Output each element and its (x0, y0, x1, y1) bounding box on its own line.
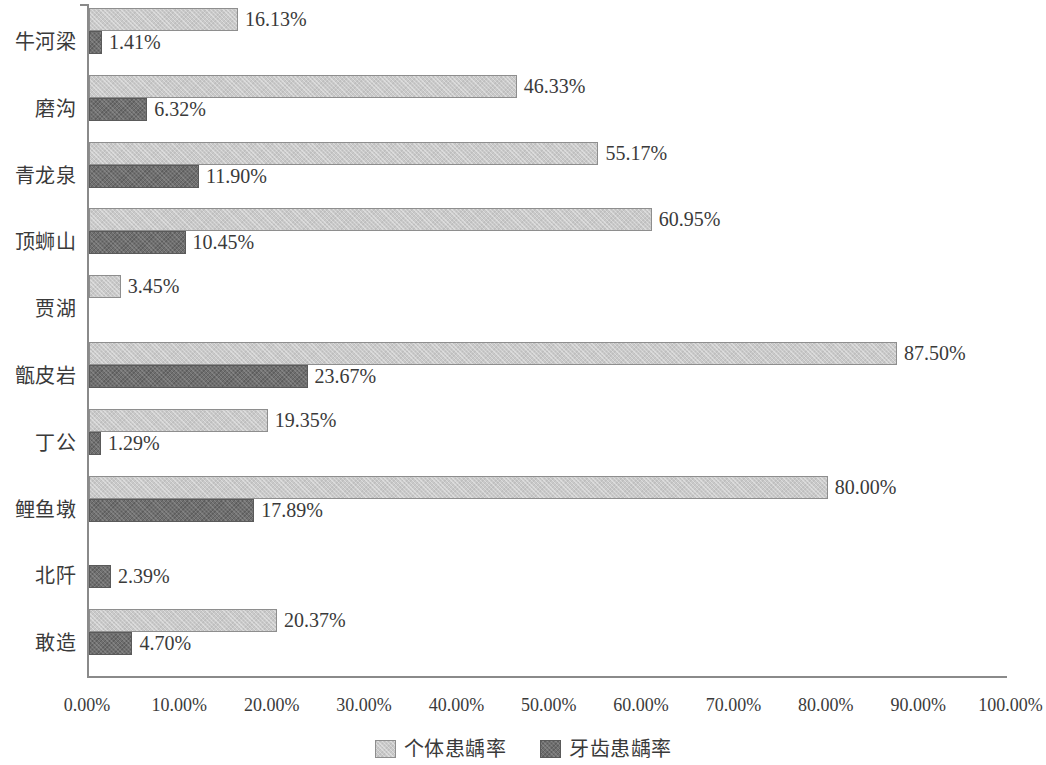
bar-value-label: 1.29% (101, 431, 160, 454)
bar-group: 青龙泉55.17%11.90% (0, 142, 1046, 188)
bar-row: 17.89% (89, 499, 1046, 522)
bar-value-label: 23.67% (308, 364, 377, 387)
bar-group: 丁公19.35%1.29% (0, 409, 1046, 455)
category-label: 贾湖 (0, 297, 76, 321)
bar-value-label: 46.33% (517, 74, 586, 97)
bar-row: 11.90% (89, 165, 1046, 188)
legend-label: 牙齿患龋率 (569, 737, 672, 761)
bar-group: 北阡2.39% (0, 542, 1046, 588)
bar-row: 1.29% (89, 432, 1046, 455)
plot-area: 牛河梁16.13%1.41%磨沟46.33%6.32%青龙泉55.17%11.9… (0, 0, 1046, 690)
category-label: 鲤鱼墩 (0, 498, 76, 522)
bar-individual-caries-rate (89, 476, 828, 499)
bar-row: 3.45% (89, 275, 1046, 298)
bar-value-label: 17.89% (254, 498, 323, 521)
bar-tooth-caries-rate (89, 31, 102, 54)
bar-value-label: 55.17% (598, 141, 667, 164)
bar-tooth-caries-rate (89, 165, 199, 188)
bar-individual-caries-rate (89, 8, 238, 31)
bar-group: 贾湖3.45% (0, 275, 1046, 321)
bar-value-label: 16.13% (238, 7, 307, 30)
legend-item[interactable]: 牙齿患龋率 (540, 737, 672, 761)
bar-row: 55.17% (89, 142, 1046, 165)
bar-group: 牛河梁16.13%1.41% (0, 8, 1046, 54)
legend-item[interactable]: 个体患龋率 (375, 737, 507, 761)
category-label: 北阡 (0, 564, 76, 588)
bar-value-label: 87.50% (897, 341, 966, 364)
bar-value-label: 19.35% (268, 408, 337, 431)
bar-value-label: 80.00% (828, 475, 897, 498)
bar-row: 1.41% (89, 31, 1046, 54)
bar-group: 鲤鱼墩80.00%17.89% (0, 476, 1046, 522)
bar-row: 19.35% (89, 409, 1046, 432)
bar-row: 16.13% (89, 8, 1046, 31)
category-label: 磨沟 (0, 97, 76, 121)
bar-individual-caries-rate (89, 75, 517, 98)
bar-individual-caries-rate (89, 142, 598, 165)
bar-tooth-caries-rate (89, 565, 111, 588)
bar-value-label: 10.45% (186, 230, 255, 253)
category-label: 甑皮岩 (0, 364, 76, 388)
bar-row: 20.37% (89, 609, 1046, 632)
bar-value-label: 2.39% (111, 564, 170, 587)
legend-swatch-icon (375, 740, 396, 758)
bar-value-label: 11.90% (199, 164, 267, 187)
legend-label: 个体患龋率 (404, 737, 507, 761)
bar-group: 敢造20.37%4.70% (0, 609, 1046, 655)
bar-row: 10.45% (89, 231, 1046, 254)
bar-group: 磨沟46.33%6.32% (0, 75, 1046, 121)
bar-value-label: 6.32% (147, 97, 206, 120)
bar-row: 4.70% (89, 632, 1046, 655)
caries-rate-bar-chart: 牛河梁16.13%1.41%磨沟46.33%6.32%青龙泉55.17%11.9… (0, 0, 1046, 765)
bar-tooth-caries-rate (89, 231, 186, 254)
bar-individual-caries-rate (89, 208, 652, 231)
category-label: 丁公 (0, 431, 76, 455)
category-label: 牛河梁 (0, 30, 76, 54)
bar-row: 87.50% (89, 342, 1046, 365)
bar-individual-caries-rate (89, 609, 277, 632)
x-axis-tick-label: 100.00% (956, 694, 1046, 716)
bar-tooth-caries-rate (89, 499, 254, 522)
bar-row: 80.00% (89, 476, 1046, 499)
category-label: 青龙泉 (0, 164, 76, 188)
bar-value-label: 3.45% (121, 274, 180, 297)
bar-row: 6.32% (89, 98, 1046, 121)
y-axis-top-tick (80, 4, 88, 6)
bar-value-label: 20.37% (277, 608, 346, 631)
bar-tooth-caries-rate (89, 432, 101, 455)
bar-row: 46.33% (89, 75, 1046, 98)
chart-legend: 个体患龋率牙齿患龋率 (0, 737, 1046, 761)
bar-tooth-caries-rate (89, 632, 132, 655)
bar-tooth-caries-rate (89, 98, 147, 121)
category-label: 敢造 (0, 631, 76, 655)
bar-individual-caries-rate (89, 342, 897, 365)
bar-group: 顶蛳山60.95%10.45% (0, 208, 1046, 254)
bar-row: 2.39% (89, 565, 1046, 588)
legend-swatch-icon (540, 740, 561, 758)
bar-value-label: 1.41% (102, 30, 161, 53)
bar-value-label: 60.95% (652, 207, 721, 230)
x-axis-line (87, 676, 1007, 678)
bar-row: 23.67% (89, 365, 1046, 388)
bar-individual-caries-rate (89, 275, 121, 298)
category-label: 顶蛳山 (0, 230, 76, 254)
bar-value-label: 4.70% (132, 631, 191, 654)
bar-individual-caries-rate (89, 409, 268, 432)
bar-tooth-caries-rate (89, 365, 308, 388)
bar-row: 60.95% (89, 208, 1046, 231)
bar-group: 甑皮岩87.50%23.67% (0, 342, 1046, 388)
